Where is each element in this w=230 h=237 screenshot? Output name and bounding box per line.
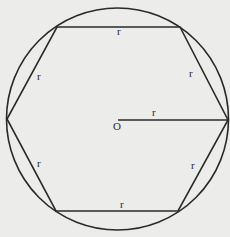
label-side-upper-left: r: [37, 70, 41, 82]
label-radius: r: [152, 106, 156, 118]
label-side-lower-right: r: [191, 159, 195, 171]
label-side-bottom: r: [120, 198, 124, 210]
label-center-o: O: [113, 120, 121, 132]
diagram-canvas: r r r r r r r O: [0, 0, 230, 237]
label-side-upper-right: r: [189, 67, 193, 79]
label-side-lower-left: r: [37, 157, 41, 169]
hexagon-diagram: r r r r r r r O: [0, 0, 230, 237]
label-side-top: r: [117, 25, 121, 37]
circumscribed-circle: [7, 8, 229, 230]
inscribed-hexagon: [7, 27, 228, 211]
